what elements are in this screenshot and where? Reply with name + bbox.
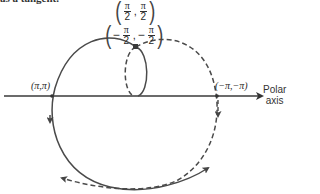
- fraction-y: π 2: [140, 1, 147, 22]
- fraction-y: π 2: [148, 25, 155, 46]
- solid-curve: [52, 38, 208, 190]
- fraction-x: π 2: [123, 25, 130, 46]
- point-label-loop-top: ( − π 2 , − π 2 ): [104, 22, 165, 48]
- dashed-inner-loop: [125, 47, 136, 96]
- right-crossing-point: [215, 94, 219, 98]
- polar-axis-label: Polar axis: [263, 84, 286, 106]
- dashed-curve: [62, 39, 217, 188]
- left-crossing-point: [50, 94, 54, 98]
- point-label-right-crossing: (−π,−π): [215, 80, 248, 91]
- fraction-x: π 2: [124, 1, 131, 22]
- point-label-left-crossing: (π,π): [31, 80, 50, 91]
- point-label-top: ( π 2 , π 2 ): [114, 0, 157, 24]
- solid-inner-loop: [136, 47, 147, 96]
